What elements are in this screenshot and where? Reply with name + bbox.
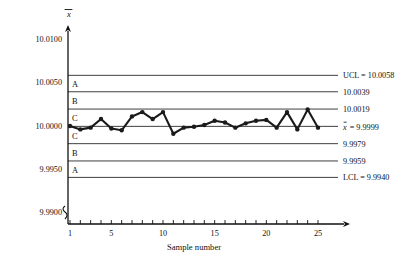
data-point-17 (233, 125, 237, 129)
data-point-21 (274, 125, 278, 129)
x-tick-label-2: 10 (159, 229, 167, 238)
data-point-2 (78, 127, 82, 131)
zone-letter-0: A (72, 80, 78, 89)
control-line-zone-a-b: 10.0039 (68, 88, 370, 97)
x-tick-label-0: 1 (68, 229, 72, 238)
data-point-10 (161, 110, 165, 114)
zone-letter-1: B (72, 97, 78, 106)
label-zone-c-b: 9.9979 (343, 140, 366, 149)
y-axis-title: x (66, 9, 71, 19)
x-tick-label-1: 5 (109, 229, 113, 238)
x-tick-label-5: 25 (314, 229, 322, 238)
zone-letter-2: C (72, 114, 78, 123)
data-point-3 (88, 125, 92, 129)
control-line-zone-b-a: 9.9959 (68, 157, 366, 166)
label-lcl: LCL = 9.9940 (343, 173, 389, 182)
data-point-4 (99, 117, 103, 121)
data-point-14 (202, 123, 206, 127)
data-point-22 (285, 110, 289, 114)
axis-break-symbol (63, 206, 67, 219)
data-point-16 (223, 120, 227, 124)
data-point-11 (171, 132, 175, 136)
zone-letter-3: C (72, 132, 78, 141)
data-point-8 (140, 110, 144, 114)
data-point-15 (212, 119, 216, 123)
data-point-20 (264, 118, 268, 122)
label-center: x = 9.9999 (342, 123, 379, 132)
data-series-line (70, 110, 318, 134)
data-point-9 (150, 117, 154, 121)
label-ucl: UCL = 10.0058 (343, 71, 394, 80)
y-tick-label-1: 10.0050 (35, 78, 62, 87)
data-point-24 (305, 107, 309, 111)
x-axis-arrow (343, 221, 350, 227)
zone-letter-5: A (72, 166, 78, 175)
control-chart-svg: UCL = 10.005810.003910.0019x = 9.9999=9.… (0, 0, 413, 266)
data-point-6 (119, 128, 123, 132)
control-line-zone-b-c: 10.0019 (68, 105, 370, 114)
x-tick-label-3: 15 (211, 229, 219, 238)
center-line-doublebar: = (343, 118, 347, 125)
data-point-7 (130, 114, 134, 118)
y-tick-label-0: 10.0100 (35, 35, 62, 44)
data-point-25 (316, 125, 320, 129)
data-point-18 (243, 121, 247, 125)
label-zone-a-b: 10.0039 (343, 88, 370, 97)
x-axis-title: Sample number (167, 242, 221, 252)
y-axis-arrow (65, 25, 71, 32)
y-tick-label-2: 10.0000 (35, 122, 62, 131)
y-tick-label-4: 9.9900 (39, 208, 62, 217)
x-tick-label-4: 20 (262, 229, 270, 238)
data-point-23 (295, 127, 299, 131)
zone-letter-4: B (72, 149, 78, 158)
y-tick-label-3: 9.9950 (39, 165, 62, 174)
data-point-5 (109, 126, 113, 130)
label-zone-b-c: 10.0019 (343, 105, 370, 114)
control-line-ucl: UCL = 10.0058 (68, 71, 394, 80)
label-zone-b-a: 9.9959 (343, 157, 366, 166)
control-line-zone-c-b: 9.9979 (68, 140, 366, 149)
control-line-lcl: LCL = 9.9940 (68, 173, 389, 182)
data-point-1 (68, 124, 72, 128)
control-chart: UCL = 10.005810.003910.0019x = 9.9999=9.… (0, 0, 413, 266)
data-point-12 (181, 125, 185, 129)
data-point-19 (254, 119, 258, 123)
data-point-13 (192, 125, 196, 129)
